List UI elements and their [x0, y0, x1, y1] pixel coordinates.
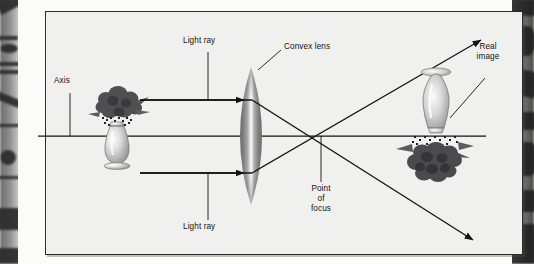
leader-real-image	[450, 78, 485, 118]
label-point-of-focus-line2: of	[300, 194, 342, 204]
figure-screenshot: Axis Light ray Light ray Convex lens Poi…	[0, 0, 534, 264]
label-axis: Axis	[54, 76, 70, 86]
leader-lines	[70, 50, 485, 220]
biconvex-lens	[240, 67, 262, 205]
image-vase-of-flowers-inverted	[396, 68, 474, 182]
label-point-of-focus-line3: focus	[300, 204, 342, 214]
object-vase-of-flowers-upright	[88, 86, 150, 169]
label-light-ray-top: Light ray	[183, 36, 215, 46]
scanned-page: Axis Light ray Light ray Convex lens Poi…	[18, 0, 512, 264]
label-convex-lens: Convex lens	[284, 42, 330, 52]
label-point-of-focus-line1: Point	[300, 184, 342, 194]
leader-convex-lens	[258, 50, 281, 70]
label-light-ray-bottom: Light ray	[183, 222, 215, 232]
label-real-image-line2: image	[470, 52, 506, 62]
ray-diagram-canvas	[18, 0, 512, 264]
label-real-image-line1: Real	[470, 42, 506, 52]
